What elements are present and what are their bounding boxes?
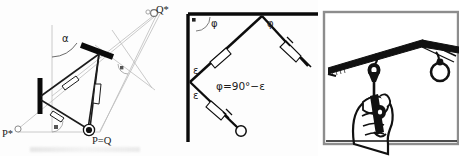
photo-svg (318, 0, 459, 156)
beam-lines (190, 16, 308, 128)
p-star-label: P* (2, 129, 13, 140)
reflection-geometry-panel: α Q* P* P=Q (0, 0, 180, 156)
q-star-label: Q* (156, 5, 169, 16)
angles-svg (180, 0, 318, 156)
caption-smudge (30, 147, 140, 152)
angle-relation-panel: φ φ ε ε φ=90°−ε (180, 0, 318, 156)
corner-right-angle (196, 17, 210, 31)
phi-left-label: φ (211, 19, 218, 29)
plumb-bob-illustration-panel (318, 0, 459, 156)
epsilon-lower-label: ε (193, 91, 198, 101)
figure-container: α Q* P* P=Q (0, 0, 459, 156)
ray-direction-arrows (50, 76, 101, 122)
phi-relation-label: φ=90°−ε (216, 81, 265, 92)
pendulum-bob (236, 126, 246, 136)
phi-right-label: φ (267, 19, 274, 29)
epsilon-upper-label: ε (193, 66, 198, 76)
corner-right-angle-dot (192, 18, 196, 22)
geometry-svg (0, 0, 180, 156)
alpha-label: α (62, 34, 69, 44)
alpha-angle-arc (52, 43, 77, 57)
wall-lines (188, 14, 318, 142)
p-equals-q-label: P=Q (92, 136, 111, 147)
